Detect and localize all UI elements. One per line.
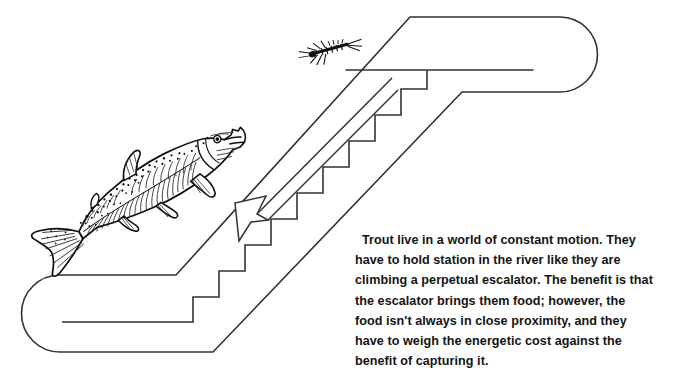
figure-page: Trout live in a world of constant motion… [0,0,684,371]
figure-caption: Trout live in a world of constant motion… [355,230,655,371]
trout-fish [20,100,265,283]
arrow-shaft-line-lower [268,90,398,220]
insect-antennae [298,49,311,58]
arrow-shaft-line-upper [257,78,392,214]
insect-mayfly-nymph [296,32,365,69]
direction-arrow [235,78,398,241]
arrow-head [235,196,268,241]
insect-head [309,51,316,57]
insect-tails [347,39,364,53]
